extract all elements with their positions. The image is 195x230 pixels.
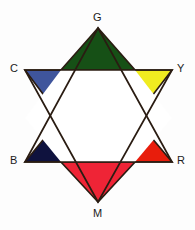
vertex-label-yellow: Y [177, 63, 185, 74]
vertex-label-red: R [177, 155, 185, 166]
vertex-label-green: G [93, 12, 102, 23]
star-svg [0, 0, 195, 230]
color-star-diagram: G C Y B R M [0, 0, 195, 230]
vertex-label-blue: B [10, 155, 18, 166]
vertex-label-cyan: C [10, 63, 18, 74]
vertex-label-magenta: M [93, 208, 102, 219]
